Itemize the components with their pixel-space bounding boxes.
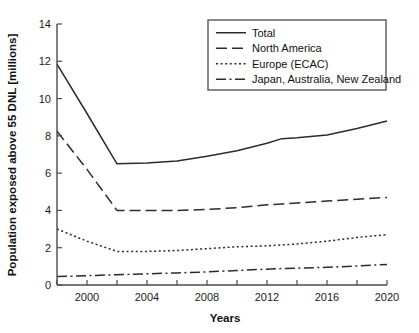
y-tick-label: 14 bbox=[39, 18, 51, 30]
y-tick-label: 10 bbox=[39, 93, 51, 105]
x-tick-label: 2000 bbox=[75, 291, 99, 303]
line-chart: 02468101214 200020042008201220162020 Pop… bbox=[0, 0, 419, 333]
plot-area bbox=[57, 64, 387, 277]
y-tick-label: 6 bbox=[45, 167, 51, 179]
chart-legend: TotalNorth AmericaEurope (ECAC)Japan, Au… bbox=[208, 20, 401, 90]
x-tick-label: 2012 bbox=[255, 291, 279, 303]
y-axis-title: Population exposed above 55 DNL [million… bbox=[6, 34, 18, 277]
series-line-3 bbox=[57, 264, 387, 276]
legend-label-1: North America bbox=[252, 42, 323, 54]
series-line-2 bbox=[57, 229, 387, 251]
series-layer bbox=[57, 64, 387, 277]
x-tick-label: 2020 bbox=[375, 291, 399, 303]
y-tick-label: 12 bbox=[39, 55, 51, 67]
series-line-1 bbox=[57, 131, 387, 210]
y-tick-label: 4 bbox=[45, 204, 51, 216]
legend-label-3: Japan, Australia, New Zealand bbox=[252, 73, 401, 85]
x-tick-label: 2008 bbox=[195, 291, 219, 303]
chart-figure: 02468101214 200020042008201220162020 Pop… bbox=[0, 0, 419, 333]
y-tick-label: 0 bbox=[45, 279, 51, 291]
y-tick-label: 2 bbox=[45, 242, 51, 254]
x-axis-ticks: 200020042008201220162020 bbox=[57, 280, 399, 303]
legend-label-2: Europe (ECAC) bbox=[252, 58, 328, 70]
x-tick-label: 2004 bbox=[135, 291, 159, 303]
x-axis-title: Years bbox=[210, 312, 241, 324]
y-axis-ticks: 02468101214 bbox=[39, 18, 62, 291]
legend-label-0: Total bbox=[252, 27, 275, 39]
x-tick-label: 2016 bbox=[315, 291, 339, 303]
y-tick-label: 8 bbox=[45, 130, 51, 142]
